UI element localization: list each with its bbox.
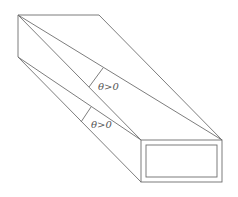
front-face-outer	[141, 140, 222, 182]
front-face-inner	[146, 145, 217, 177]
bottom-left-edge	[18, 57, 141, 182]
top-right-edge	[99, 15, 222, 140]
diagonal-apex-to-front-top-left	[18, 15, 141, 140]
angle-label-upper: θ>0	[98, 81, 119, 92]
edge-lower-to-front-top-left	[18, 57, 141, 140]
angle-label-lower: θ>0	[91, 119, 112, 130]
angle-marker-lower	[81, 107, 91, 122]
waveguide-diagram: θ>0 θ>0	[0, 0, 238, 197]
